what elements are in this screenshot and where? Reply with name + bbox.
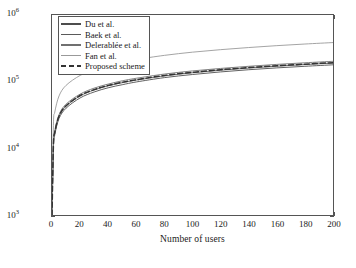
x-tick-mark xyxy=(334,212,335,216)
x-tick-label: 140 xyxy=(234,219,264,229)
legend-item[interactable]: Du et al. xyxy=(61,19,145,30)
legend-swatch xyxy=(61,52,81,60)
legend-swatch xyxy=(61,20,81,28)
x-tick-label: 160 xyxy=(262,219,292,229)
x-tick-label: 120 xyxy=(206,219,236,229)
legend-item[interactable]: Baek et al. xyxy=(61,30,145,41)
y-tick-label: 106 xyxy=(0,8,19,18)
legend-item[interactable]: Delerablée et al. xyxy=(61,40,145,51)
series-line-proposed-scheme xyxy=(52,63,333,215)
x-axis-label: Number of users xyxy=(51,234,334,244)
figure-semilog-header-size: Size of the header 103104105106 02040608… xyxy=(0,0,356,268)
x-tick-label: 100 xyxy=(178,219,208,229)
legend-label: Proposed scheme xyxy=(85,61,145,72)
legend-label: Fan et al. xyxy=(85,51,117,62)
legend-swatch xyxy=(61,63,81,71)
y-tick-mark xyxy=(330,216,334,217)
x-tick-label: 20 xyxy=(64,219,94,229)
x-tick-mark xyxy=(334,15,335,19)
x-tick-label: 200 xyxy=(319,219,349,229)
legend-item[interactable]: Proposed scheme xyxy=(61,61,145,72)
y-tick-mark xyxy=(51,216,55,217)
y-tick-label: 104 xyxy=(0,143,19,153)
x-tick-label: 180 xyxy=(291,219,321,229)
series-line-delerablee-et-al xyxy=(52,61,333,215)
legend-label: Delerablée et al. xyxy=(85,40,141,51)
x-tick-label: 60 xyxy=(121,219,151,229)
legend-swatch xyxy=(61,31,81,39)
legend-label: Du et al. xyxy=(85,19,114,30)
legend-item[interactable]: Fan et al. xyxy=(61,51,145,62)
series-line-du-et-al xyxy=(52,65,333,215)
y-tick-label: 103 xyxy=(0,210,19,220)
legend-label: Baek et al. xyxy=(85,30,122,41)
legend-swatch xyxy=(61,41,81,49)
legend: Du et al.Baek et al.Delerablée et al.Fan… xyxy=(58,16,150,75)
x-tick-label: 80 xyxy=(149,219,179,229)
y-tick-label: 105 xyxy=(0,75,19,85)
x-tick-label: 0 xyxy=(36,219,66,229)
x-tick-label: 40 xyxy=(93,219,123,229)
series-line-baek-et-al xyxy=(52,63,333,215)
